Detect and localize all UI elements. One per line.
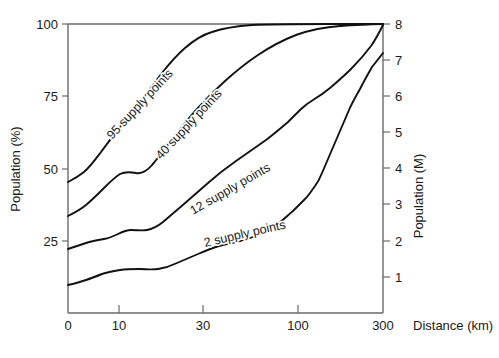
x-tick-label-10: 10 [112, 318, 126, 333]
x-axis-ticks [119, 305, 298, 313]
y2-tick-label-8: 8 [395, 17, 402, 32]
y2-tick-label-4: 4 [395, 161, 402, 176]
chart-page: 100 75 50 25 8 7 6 5 4 3 2 1 0 10 3 [0, 0, 499, 358]
x-tick-label-0: 0 [64, 318, 71, 333]
y2-tick-label-3: 3 [395, 197, 402, 212]
population-distance-chart: 100 75 50 25 8 7 6 5 4 3 2 1 0 10 3 [0, 0, 499, 358]
y2-tick-label-7: 7 [395, 53, 402, 68]
y2-tick-label-5: 5 [395, 125, 402, 140]
curve-label-95-supply-points: 95 supply points [104, 66, 176, 142]
y-tick-label-50: 50 [44, 162, 58, 177]
y2-tick-label-6: 6 [395, 89, 402, 104]
y-tick-label-100: 100 [36, 17, 58, 32]
right-axis-ticks [383, 24, 390, 277]
x-tick-label-300: 300 [372, 318, 394, 333]
curve-95-supply-points [68, 24, 383, 182]
x-tick-label-30: 30 [196, 318, 210, 333]
y2-tick-label-1: 1 [395, 270, 402, 285]
y-axis-title: Population (%) [8, 126, 23, 211]
y-tick-label-75: 75 [44, 89, 58, 104]
y2-axis-title: Population (M) [411, 154, 426, 239]
curve-label-40-supply-points: 40 supply points [153, 86, 225, 162]
left-axis-ticks [62, 24, 68, 241]
y-tick-label-25: 25 [44, 234, 58, 249]
curve-label-2-supply-points: 2 supply points [203, 218, 287, 250]
y2-tick-label-2: 2 [395, 234, 402, 249]
x-axis-title: Distance (km) [413, 318, 493, 333]
x-tick-label-100: 100 [287, 318, 309, 333]
